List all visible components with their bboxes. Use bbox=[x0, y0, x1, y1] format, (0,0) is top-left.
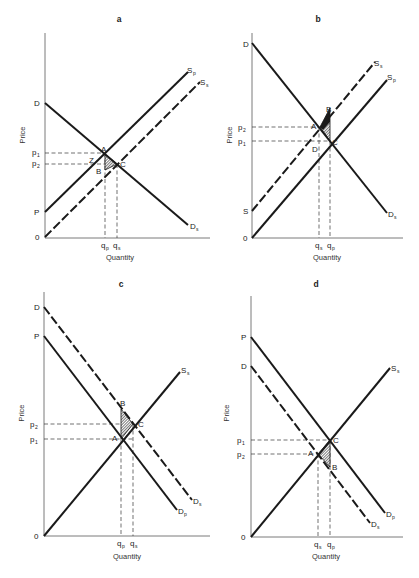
svg-text:s: s bbox=[394, 214, 397, 220]
demand-curve-dp bbox=[44, 336, 177, 510]
supply-curve-sp bbox=[45, 72, 188, 212]
svg-text:2: 2 bbox=[242, 454, 245, 460]
label-P: P bbox=[241, 333, 246, 342]
svg-text:s: s bbox=[199, 501, 202, 507]
panel-d-title: d bbox=[313, 279, 318, 289]
label-P: P bbox=[34, 208, 39, 217]
label-D: D bbox=[241, 362, 247, 371]
demand-curve-ds bbox=[251, 366, 370, 523]
label-origin: 0 bbox=[35, 233, 40, 242]
svg-text:1: 1 bbox=[243, 141, 246, 147]
label-qs: q bbox=[113, 241, 117, 250]
label-D: D bbox=[34, 99, 40, 108]
label-B: B bbox=[96, 167, 101, 176]
label-qp: q bbox=[327, 540, 331, 549]
y-axis-title: Price bbox=[18, 126, 27, 143]
label-qp: q bbox=[117, 539, 121, 548]
label-S: S bbox=[243, 207, 248, 216]
svg-text:p: p bbox=[184, 511, 187, 517]
svg-text:p: p bbox=[193, 70, 196, 76]
svg-text:p: p bbox=[332, 245, 335, 251]
y-axis-title: Price bbox=[225, 126, 234, 143]
x-axis-title: Quantity bbox=[113, 552, 141, 561]
label-B: B bbox=[332, 463, 337, 472]
x-axis-title: Quantity bbox=[106, 253, 134, 262]
label-origin: 0 bbox=[34, 532, 39, 541]
panel-c-title: c bbox=[119, 279, 124, 289]
label-C: C bbox=[332, 138, 338, 147]
panel-b-title: b bbox=[315, 14, 320, 24]
label-Ss: S bbox=[374, 59, 379, 68]
panel-b: b Price Quantity D S 0 p 2 p 1 A B C D S… bbox=[225, 14, 403, 262]
svg-text:p: p bbox=[332, 544, 335, 550]
svg-text:p: p bbox=[392, 514, 395, 520]
svg-text:1: 1 bbox=[242, 440, 245, 446]
label-A: A bbox=[101, 145, 107, 154]
svg-text:s: s bbox=[135, 543, 138, 549]
label-Z: Z bbox=[89, 156, 94, 165]
svg-text:s: s bbox=[380, 63, 383, 69]
supply-curve-sp bbox=[252, 80, 387, 238]
svg-text:2: 2 bbox=[37, 163, 40, 169]
label-qs: q bbox=[314, 540, 318, 549]
panel-a: a Price Quantity D P 0 p 1 p 2 Z A B C S… bbox=[18, 14, 210, 262]
label-A: A bbox=[308, 449, 314, 458]
svg-text:s: s bbox=[206, 82, 209, 88]
panel-d: d Price Quantity P D 0 p 1 p 2 A B C S s… bbox=[222, 279, 403, 561]
svg-text:p: p bbox=[393, 77, 396, 83]
label-origin: 0 bbox=[241, 533, 246, 542]
svg-text:s: s bbox=[397, 368, 400, 374]
label-Ss: S bbox=[200, 78, 205, 87]
svg-text:s: s bbox=[187, 370, 190, 376]
supply-curve-ss bbox=[252, 62, 375, 211]
label-C: C bbox=[120, 160, 126, 169]
label-D: D bbox=[34, 303, 40, 312]
demand-curve-ds bbox=[44, 307, 192, 500]
svg-text:2: 2 bbox=[243, 127, 246, 133]
label-qp: q bbox=[327, 241, 331, 250]
label-D-point: D bbox=[312, 145, 318, 154]
supply-curve-ss bbox=[251, 368, 390, 537]
label-A: A bbox=[112, 434, 118, 443]
svg-text:s: s bbox=[377, 524, 380, 530]
label-qp: q bbox=[101, 241, 105, 250]
svg-text:1: 1 bbox=[35, 439, 38, 445]
label-origin: 0 bbox=[243, 234, 248, 243]
label-C: C bbox=[333, 436, 339, 445]
panel-c: c Price Quantity D P 0 p 2 p 1 A B C S s… bbox=[17, 279, 210, 561]
label-B: B bbox=[120, 399, 125, 408]
label-qs: q bbox=[315, 241, 319, 250]
label-P: P bbox=[34, 332, 39, 341]
y-axis-title: Price bbox=[17, 404, 26, 421]
label-B: B bbox=[326, 105, 331, 114]
svg-text:s: s bbox=[320, 245, 323, 251]
svg-text:s: s bbox=[196, 226, 199, 232]
panel-a-title: a bbox=[117, 14, 122, 24]
x-axis-title: Quantity bbox=[313, 253, 341, 262]
label-qs: q bbox=[130, 539, 134, 548]
label-Sp: S bbox=[387, 73, 392, 82]
svg-text:p: p bbox=[106, 245, 109, 251]
label-Sp: S bbox=[187, 66, 192, 75]
svg-text:1: 1 bbox=[37, 152, 40, 158]
y-axis-title: Price bbox=[222, 404, 231, 421]
x-axis-title: Quantity bbox=[312, 552, 340, 561]
svg-text:p: p bbox=[122, 543, 125, 549]
svg-text:s: s bbox=[118, 245, 121, 251]
label-D: D bbox=[243, 40, 249, 49]
svg-text:2: 2 bbox=[35, 424, 38, 430]
label-A: A bbox=[311, 122, 317, 131]
label-C: C bbox=[138, 420, 144, 429]
label-Ss: S bbox=[391, 364, 396, 373]
svg-text:s: s bbox=[319, 544, 322, 550]
label-Ss: S bbox=[181, 366, 186, 375]
supply-demand-figure: a Price Quantity D P 0 p 1 p 2 Z A B C S… bbox=[0, 0, 419, 578]
